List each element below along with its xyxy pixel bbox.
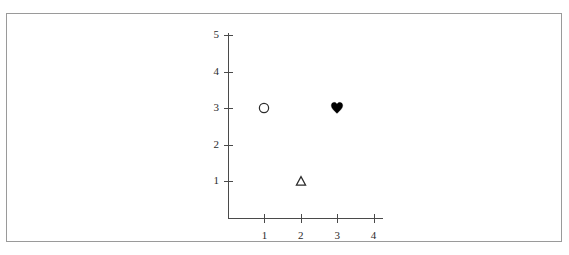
open-triangle-marker [295, 176, 306, 187]
y-tick-mark [224, 181, 233, 182]
y-tick-mark [224, 72, 233, 73]
filled-heart-marker [331, 102, 343, 114]
figure-root: 12345 1234 [0, 0, 569, 255]
y-tick-label: 4 [203, 66, 219, 77]
y-tick-label: 5 [203, 29, 219, 40]
scatter-plot-area: 12345 1234 [0, 0, 569, 255]
x-tick-label: 4 [366, 230, 382, 241]
x-tick-label: 2 [293, 230, 309, 241]
y-tick-label: 3 [203, 102, 219, 113]
x-tick-label: 1 [256, 230, 272, 241]
y-tick-mark [224, 108, 233, 109]
y-tick-label: 2 [203, 139, 219, 150]
x-axis-line [228, 218, 383, 219]
y-tick-label: 1 [203, 175, 219, 186]
x-tick-mark [301, 214, 302, 223]
x-tick-mark [337, 214, 338, 223]
y-tick-mark [224, 35, 233, 36]
x-tick-mark [264, 214, 265, 223]
y-tick-mark [224, 145, 233, 146]
x-tick-label: 3 [329, 230, 345, 241]
y-axis-line [228, 33, 229, 219]
open-circle-marker [259, 103, 270, 114]
x-tick-mark [374, 214, 375, 223]
